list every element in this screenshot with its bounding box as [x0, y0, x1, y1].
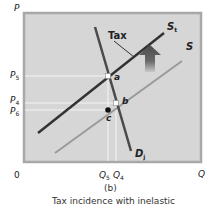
panel-label: (b) [104, 184, 117, 193]
label-sub: t [174, 26, 177, 33]
origin-label: 0 [14, 171, 20, 180]
point-a-label: a [114, 73, 120, 82]
point-b-label: b [122, 97, 128, 106]
y-axis-label: P [14, 4, 19, 13]
tick-sub: 6 [15, 110, 19, 117]
x-tick-q4: Q4 [113, 171, 124, 181]
tick-sub: 4 [120, 174, 124, 181]
supply-label: S [186, 42, 193, 52]
y-tick-p6: P6 [10, 107, 19, 117]
figure-caption: Tax incidence with inelastic [52, 197, 175, 206]
point-c-marker [105, 107, 111, 113]
point-b-marker [114, 101, 119, 106]
tick-sub: 5 [15, 74, 19, 81]
demand-label: Dj [135, 149, 145, 160]
label-sub: j [143, 153, 145, 160]
supply-with-tax-label: St [167, 22, 177, 33]
y-tick-p5: P5 [10, 71, 19, 81]
x-axis-label: Q [198, 170, 205, 179]
label-main: S [186, 41, 193, 52]
tick-sub: 4 [15, 99, 19, 106]
tick-sub: 5 [106, 174, 110, 181]
x-tick-q5: Q5 [99, 171, 110, 181]
point-a-marker [106, 74, 111, 79]
y-tick-p4: P4 [10, 96, 19, 106]
point-c-label: c [106, 114, 111, 123]
tax-label: Tax [108, 31, 127, 41]
